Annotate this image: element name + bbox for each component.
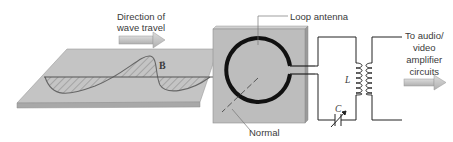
inductor-label: L — [345, 75, 350, 86]
normal-label: Normal — [249, 127, 280, 138]
diagram-canvas — [0, 0, 453, 142]
direction-label-line1: Direction of — [117, 11, 165, 22]
direction-label: Direction of wave travel — [117, 11, 165, 33]
output-label-line2: video — [405, 42, 444, 54]
loop-antenna-label: Loop antenna — [290, 11, 348, 22]
capacitor-label: C — [335, 104, 341, 115]
output-label: To audio/ video amplifier circuits — [405, 30, 444, 78]
tuning-circuit — [315, 37, 402, 120]
vector-arrow-icon: → — [159, 55, 166, 66]
output-label-line1: To audio/ — [405, 30, 444, 42]
output-label-line4: circuits — [405, 66, 444, 78]
direction-label-line2: wave travel — [117, 22, 165, 33]
direction-arrow-icon — [119, 32, 165, 48]
output-label-line3: amplifier — [405, 54, 444, 66]
